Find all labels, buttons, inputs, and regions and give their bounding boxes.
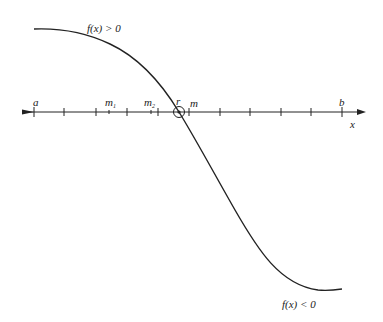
label-m1: m1 — [105, 97, 116, 109]
label-a: a — [33, 97, 39, 108]
axis-right-arrow-icon — [357, 109, 366, 115]
label-f-positive: f(x) > 0 — [87, 23, 121, 34]
diagram-graphics — [0, 0, 383, 322]
bisection-diagram: f(x) > 0 f(x) < 0 a b m1 m2 r m x — [0, 0, 383, 322]
label-m: m — [190, 98, 198, 109]
axis-left-arrow-icon — [22, 110, 34, 115]
label-r: r — [176, 96, 180, 107]
label-m1-main: m — [105, 96, 113, 108]
label-x-axis: x — [350, 119, 355, 130]
label-f-negative: f(x) < 0 — [282, 299, 316, 310]
function-curve — [34, 29, 342, 291]
root-dot-icon — [177, 110, 180, 113]
label-m1-sub: 1 — [113, 103, 116, 109]
label-b: b — [339, 97, 345, 108]
label-m2-sub: 2 — [152, 103, 155, 109]
label-m2: m2 — [144, 97, 155, 109]
label-m2-main: m — [144, 96, 152, 108]
